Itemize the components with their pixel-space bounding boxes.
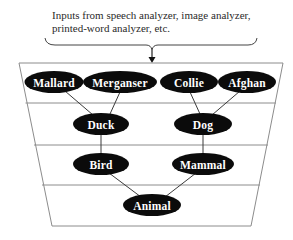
semantic-hierarchy-diagram: Mallard Merganser Collie Afghan Duck Dog… bbox=[0, 0, 293, 240]
curly-brace-icon bbox=[45, 38, 257, 50]
node-label: Afghan bbox=[228, 77, 266, 90]
node-mallard: Mallard bbox=[25, 71, 84, 93]
node-duck: Duck bbox=[73, 113, 129, 135]
node-label: Bird bbox=[89, 159, 113, 171]
node-dog: Dog bbox=[174, 113, 232, 135]
node-animal: Animal bbox=[123, 194, 181, 216]
node-label: Dog bbox=[193, 119, 213, 132]
edges bbox=[65, 91, 240, 197]
node-label: Mallard bbox=[33, 77, 75, 89]
arrow-down-icon bbox=[149, 57, 156, 63]
node-label: Merganser bbox=[92, 77, 147, 90]
node-collie: Collie bbox=[160, 71, 218, 93]
node-mammal: Mammal bbox=[172, 153, 234, 175]
node-label: Animal bbox=[133, 200, 171, 212]
node-label: Collie bbox=[174, 77, 204, 89]
node-label: Mammal bbox=[180, 159, 226, 171]
node-bird: Bird bbox=[73, 153, 129, 175]
node-afghan: Afghan bbox=[218, 71, 276, 93]
node-merganser: Merganser bbox=[83, 71, 157, 93]
node-label: Duck bbox=[87, 119, 114, 131]
